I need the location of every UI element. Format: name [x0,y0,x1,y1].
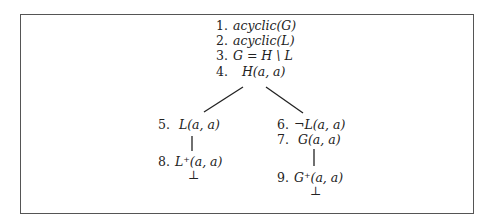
node-2: 2.acyclic(L) [216,33,295,48]
node-3: 3.G = H \ L [216,48,293,63]
node-1: 1.acyclic(G) [216,18,296,33]
node-7: 7.G(a, a) [277,132,341,147]
node-8: 8.L⁺(a, a) [158,154,222,169]
closed-branch-left: ⊥ [188,168,199,182]
node-9: 9.G⁺(a, a) [277,170,343,185]
node-5: 5.L(a, a) [158,117,220,132]
closed-branch-right: ⊥ [310,184,321,198]
node-6: 6.¬L(a, a) [277,117,345,132]
node-4: 4.H(a, a) [216,64,285,79]
